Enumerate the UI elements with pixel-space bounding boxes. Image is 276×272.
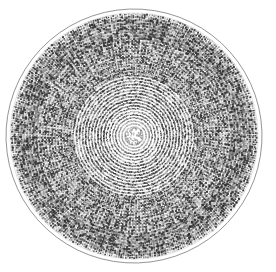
diatom-valve-illustration [0,0,276,272]
figure-root: Centric diatom valve valve view radial, … [0,0,276,272]
